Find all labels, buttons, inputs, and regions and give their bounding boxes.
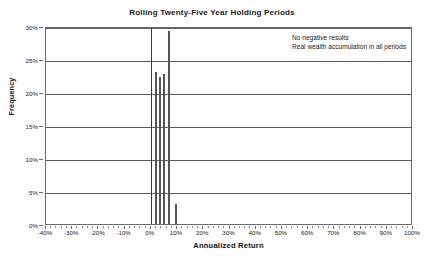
x-tick-label: 100% (404, 229, 420, 236)
bar (175, 204, 177, 224)
x-minor-tick (155, 226, 156, 228)
y-tick-mark (39, 60, 43, 61)
x-tick-label: 50% (275, 229, 287, 236)
x-minor-tick (187, 226, 188, 228)
chart-container: Rolling Twenty-Five Year Holding Periods… (0, 0, 424, 264)
bar (168, 31, 170, 224)
x-minor-tick (192, 226, 193, 228)
x-minor-tick (61, 226, 62, 228)
x-minor-tick (260, 226, 261, 228)
x-minor-tick (171, 226, 172, 228)
bar (163, 74, 165, 224)
x-minor-tick (244, 226, 245, 228)
x-minor-tick (92, 226, 93, 228)
x-minor-tick (344, 226, 345, 228)
x-minor-tick (55, 226, 56, 228)
y-tick-label: 15% (26, 123, 38, 130)
x-minor-tick (76, 226, 77, 228)
bar (159, 77, 161, 224)
x-tick-label: 40% (249, 229, 261, 236)
y-axis: 0%5%10%15%20%25%30% (0, 27, 43, 225)
x-minor-tick (265, 226, 266, 228)
x-tick-label: 10% (170, 229, 182, 236)
x-tick-label: 90% (380, 229, 392, 236)
x-minor-tick (103, 226, 104, 228)
plot-area (45, 27, 412, 225)
x-minor-tick (82, 226, 83, 228)
x-minor-tick (291, 226, 292, 228)
x-minor-tick (218, 226, 219, 228)
x-tick-label: -20% (90, 229, 104, 236)
x-minor-tick (381, 226, 382, 228)
x-minor-tick (286, 226, 287, 228)
chart-title: Rolling Twenty-Five Year Holding Periods (0, 8, 424, 17)
bars-layer (46, 28, 411, 224)
x-minor-tick (87, 226, 88, 228)
x-tick-label: 60% (301, 229, 313, 236)
x-minor-tick (276, 226, 277, 228)
x-minor-tick (297, 226, 298, 228)
x-minor-tick (108, 226, 109, 228)
y-tick-label: 30% (26, 24, 38, 31)
x-minor-tick (197, 226, 198, 228)
x-minor-tick (407, 226, 408, 228)
x-minor-tick (223, 226, 224, 228)
x-minor-tick (66, 226, 67, 228)
x-tick-label: 70% (327, 229, 339, 236)
x-minor-tick (134, 226, 135, 228)
x-minor-tick (270, 226, 271, 228)
x-minor-tick (318, 226, 319, 228)
x-tick-label: 30% (222, 229, 234, 236)
x-minor-tick (375, 226, 376, 228)
x-minor-tick (50, 226, 51, 228)
y-tick-mark (39, 159, 43, 160)
x-minor-tick (328, 226, 329, 228)
x-minor-tick (118, 226, 119, 228)
x-tick-label: 0% (145, 229, 154, 236)
x-minor-tick (160, 226, 161, 228)
y-tick-label: 10% (26, 156, 38, 163)
y-tick-label: 0% (29, 222, 38, 229)
x-minor-tick (339, 226, 340, 228)
x-minor-tick (113, 226, 114, 228)
x-minor-tick (145, 226, 146, 228)
x-tick-label: -10% (116, 229, 130, 236)
x-minor-tick (129, 226, 130, 228)
x-minor-tick (181, 226, 182, 228)
x-minor-tick (354, 226, 355, 228)
y-tick-mark (39, 225, 43, 226)
annotation-text: No negative results (292, 33, 406, 42)
bar (155, 72, 157, 224)
x-tick-label: -40% (38, 229, 52, 236)
y-tick-mark (39, 192, 43, 193)
x-minor-tick (349, 226, 350, 228)
y-tick-mark (39, 126, 43, 127)
x-minor-tick (208, 226, 209, 228)
x-minor-tick (396, 226, 397, 228)
x-minor-tick (166, 226, 167, 228)
y-tick-mark (39, 93, 43, 94)
x-minor-tick (249, 226, 250, 228)
x-tick-label: -30% (64, 229, 78, 236)
y-tick-label: 20% (26, 90, 38, 97)
x-minor-tick (239, 226, 240, 228)
y-tick-mark (39, 27, 43, 28)
x-minor-tick (234, 226, 235, 228)
x-tick-label: 80% (353, 229, 365, 236)
y-tick-label: 5% (29, 189, 38, 196)
x-minor-tick (312, 226, 313, 228)
x-minor-tick (365, 226, 366, 228)
y-tick-label: 25% (26, 57, 38, 64)
x-minor-tick (370, 226, 371, 228)
x-minor-tick (302, 226, 303, 228)
x-axis-title: Annualized Return (45, 241, 412, 250)
x-tick-label: 20% (196, 229, 208, 236)
x-minor-tick (139, 226, 140, 228)
x-minor-tick (323, 226, 324, 228)
x-minor-tick (402, 226, 403, 228)
x-axis: -40%-30%-20%-10%0%10%20%30%40%50%60%70%8… (45, 226, 412, 240)
chart-annotations: No negative resultsReal wealth accumulat… (292, 33, 406, 51)
x-minor-tick (213, 226, 214, 228)
annotation-text: Real wealth accumulation in all periods (292, 42, 406, 51)
x-minor-tick (391, 226, 392, 228)
